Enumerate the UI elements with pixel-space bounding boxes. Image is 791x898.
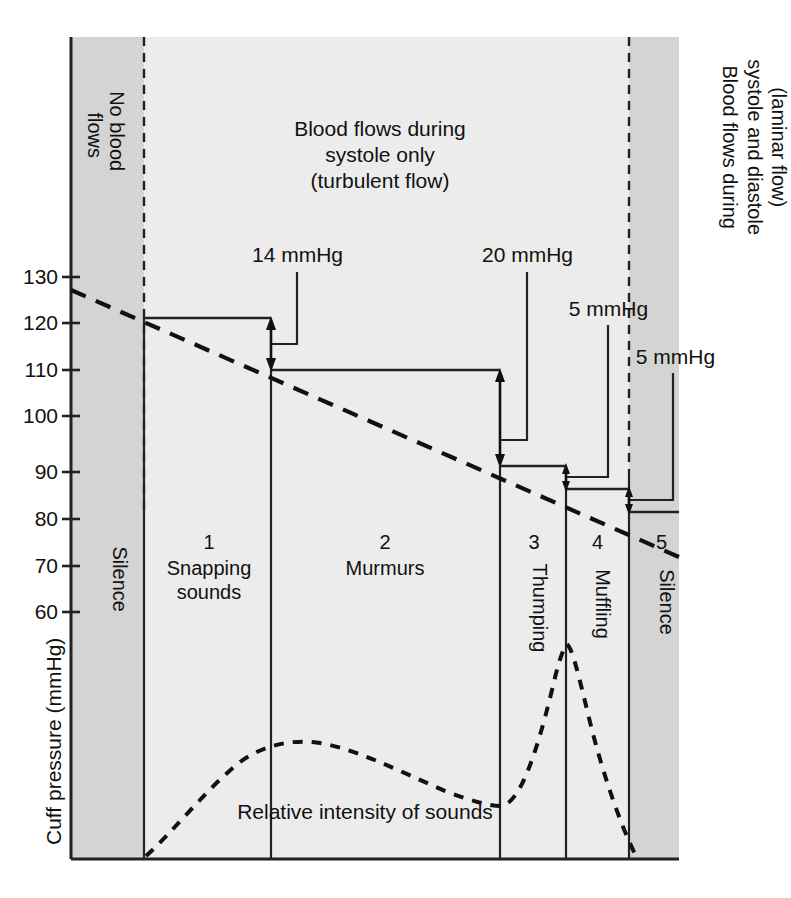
region-label-laminar-line1: Blood flows during: [718, 32, 742, 262]
annotation-14mmhg: 14 mmHg: [230, 243, 365, 267]
region-label-no-blood-flows-line2: flows: [84, 70, 106, 200]
region-label-laminar-line2: systole and diastole: [743, 32, 767, 262]
phase-1-name-line1: Snapping: [150, 556, 268, 580]
phase-1-name-line2: sounds: [150, 580, 268, 604]
arrow-5mmhg-b: [625, 486, 633, 515]
phase-2-number: 2: [326, 530, 444, 554]
arrow-14mmhg: [266, 316, 276, 372]
sound-intensity-curve: [146, 644, 636, 856]
region-label-laminar-line3: (laminar flow): [767, 32, 791, 262]
pressure-step-line: [144, 318, 679, 512]
y-tick-130: 130: [0, 265, 58, 289]
y-tick-120: 120: [0, 311, 58, 335]
y-tick-60: 60: [0, 600, 58, 624]
cuff-pressure-dashed-line: [71, 290, 679, 557]
phase-5-name: Silence: [655, 537, 679, 667]
y-axis-ticks: [62, 277, 80, 612]
phase-3-name: Thumping: [528, 543, 552, 673]
arrow-5mmhg-a: [562, 463, 570, 492]
right-shaded-band: [629, 37, 679, 859]
phase-1-number: 1: [150, 530, 268, 554]
region-label-turbulent-line3: (turbulent flow): [265, 168, 495, 194]
region-label-no-blood-flows-line1: No blood: [106, 66, 128, 196]
y-axis-title: Cuff pressure (mmHg): [42, 638, 66, 845]
y-tick-110: 110: [0, 358, 58, 382]
region-label-turbulent-line2: systole only: [265, 142, 495, 168]
intensity-caption: Relative intensity of sounds: [180, 800, 550, 824]
phase-4-name: Muffling: [591, 539, 615, 669]
phase-2-name: Murmurs: [326, 556, 444, 580]
y-tick-100: 100: [0, 404, 58, 428]
y-tick-90: 90: [0, 460, 58, 484]
arrow-20mmhg: [495, 368, 505, 468]
annotation-5mmhg-b: 5 mmHg: [612, 345, 739, 369]
annotation-20mmhg: 20 mmHg: [460, 243, 595, 267]
phase-label-left-silence: Silence: [109, 514, 131, 644]
annotation-5mmhg-a: 5 mmHg: [545, 297, 672, 321]
region-label-turbulent-line1: Blood flows during: [265, 116, 495, 142]
y-tick-70: 70: [0, 554, 58, 578]
y-tick-80: 80: [0, 507, 58, 531]
